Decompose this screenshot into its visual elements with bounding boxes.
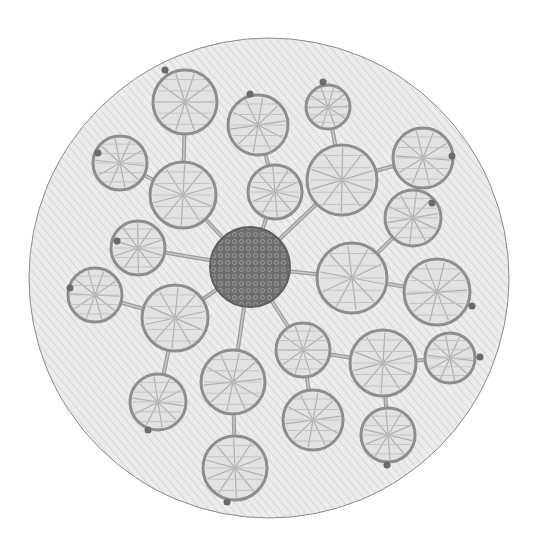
tip-knot: [429, 200, 436, 207]
motif-b-mid: [201, 350, 265, 414]
embroidery-artwork: [0, 0, 537, 546]
motif-tr-leaf: [393, 128, 456, 188]
tip-knot: [67, 285, 74, 292]
tip-knot: [114, 238, 121, 245]
motif-tl-leaf: [93, 136, 147, 190]
motif-r-mid: [317, 243, 387, 313]
tip-knot: [95, 150, 102, 157]
motif-r-leaf-top: [385, 190, 441, 246]
motif-br-2: [350, 330, 416, 396]
motif-tl-mid: [150, 162, 216, 228]
motif-l-leaf-top: [111, 221, 165, 275]
tip-knot: [449, 153, 456, 160]
tip-knot: [469, 303, 476, 310]
tip-knot: [145, 427, 152, 434]
embroidery-photo: Grayscale photograph of a circular embro…: [0, 0, 537, 546]
tip-knot: [224, 499, 231, 506]
motif-tr-mid: [307, 145, 377, 215]
center-beaded-disc: [210, 227, 290, 307]
tip-knot: [320, 79, 327, 86]
tip-knot: [247, 91, 254, 98]
tip-knot: [384, 462, 391, 469]
motif-br-low1: [283, 390, 343, 450]
tip-knot: [162, 67, 169, 74]
motif-br-1: [276, 323, 330, 377]
motif-tm-low: [248, 165, 302, 219]
motif-l-big: [142, 285, 208, 351]
tip-knot: [477, 354, 484, 361]
motif-l-leaf-far: [67, 268, 123, 322]
